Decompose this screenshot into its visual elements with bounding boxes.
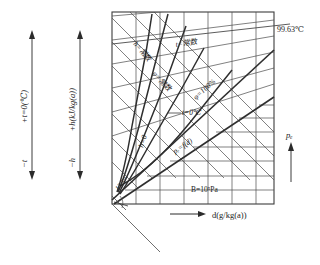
arrow-down-icon <box>77 171 83 180</box>
temperature-negative-label: −t <box>19 159 29 168</box>
barometric-label: B=10⁵Pa <box>191 185 219 194</box>
arrow-right-icon <box>198 211 206 217</box>
temperature-positive-label: +t=0(℃) <box>19 90 29 123</box>
chart-body <box>112 0 300 252</box>
h-constant-label: h=常数 <box>131 40 154 65</box>
enthalpy-positive-label: +h(kJ/kg(a)) <box>67 88 77 132</box>
arrow-up-icon <box>77 30 83 39</box>
t-constant-label: t=常数 <box>175 36 199 49</box>
x-axis-label-group: d(g/kg(a)) <box>170 210 247 220</box>
figure-canvas: +t=0(℃) −t +h(kJ/kg(a)) −h <box>0 0 320 265</box>
x-axis-label: d(g/kg(a)) <box>212 210 247 220</box>
saturation-temp-label: 99.63℃ <box>277 25 304 34</box>
left-axis-enthalpy: +h(kJ/kg(a)) −h <box>67 30 83 180</box>
psychrometric-chart-svg: +t=0(℃) −t +h(kJ/kg(a)) −h <box>0 0 320 265</box>
ps-axis-label: pₑ <box>285 130 292 140</box>
arrow-up-icon <box>288 142 294 151</box>
enthalpy-negative-label: −h <box>67 158 77 168</box>
right-axis-ps: pₑ <box>285 130 294 182</box>
arrow-down-icon <box>29 171 35 180</box>
arrow-up-icon <box>29 30 35 39</box>
left-axis-temperature: +t=0(℃) −t <box>19 30 35 180</box>
h-zero-label: h=0 <box>136 134 149 149</box>
t-zero-label: t=0℃ <box>182 108 202 117</box>
